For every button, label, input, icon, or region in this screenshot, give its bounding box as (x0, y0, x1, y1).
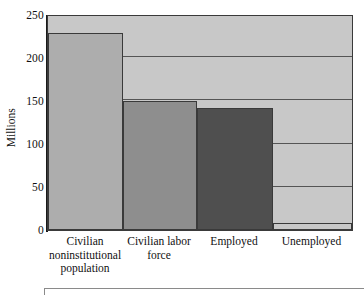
page-rule (44, 288, 364, 289)
x-label-civilian-labor-force: Civilian labor force (122, 235, 196, 262)
x-label-line: Employed (196, 235, 272, 249)
x-label-unemployed: Unemployed (272, 235, 351, 249)
y-tick-50: 50 (4, 182, 44, 194)
x-label-civilian-noninstitutional-population: Civilian noninstitutional population (45, 235, 125, 276)
bar-employed[interactable] (197, 108, 273, 230)
x-axis-category-labels: Civilian noninstitutional population Civ… (47, 235, 353, 283)
x-label-employed: Employed (196, 235, 272, 249)
x-label-line: force (122, 249, 196, 263)
page-rule-tick (44, 288, 45, 295)
bar-unemployed[interactable] (273, 223, 352, 230)
bar-civilian-noninstitutional-population[interactable] (48, 33, 123, 230)
y-tick-250: 250 (4, 10, 44, 22)
y-axis-title: Millions (6, 93, 18, 163)
x-label-line: Unemployed (272, 235, 351, 249)
x-label-line: population (45, 262, 125, 276)
bar-chart-figure: 250 200 150 100 50 0 Millions Civilian n… (0, 0, 364, 295)
bar-civilian-labor-force[interactable] (123, 101, 197, 230)
x-label-line: Civilian (45, 235, 125, 249)
plot-area (47, 15, 353, 231)
x-label-line: Civilian labor (122, 235, 196, 249)
y-tick-0: 0 (4, 225, 44, 237)
y-tick-200: 200 (4, 53, 44, 65)
x-label-line: noninstitutional (45, 249, 125, 263)
